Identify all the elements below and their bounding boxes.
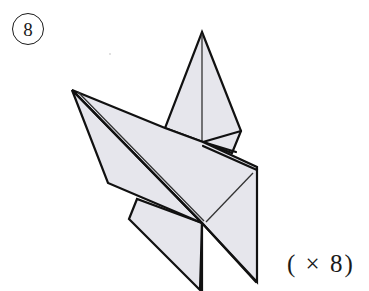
- paper-speck: [109, 53, 111, 55]
- repeat-count-label: ( × 8): [287, 250, 355, 278]
- origami-diagram: [0, 0, 369, 291]
